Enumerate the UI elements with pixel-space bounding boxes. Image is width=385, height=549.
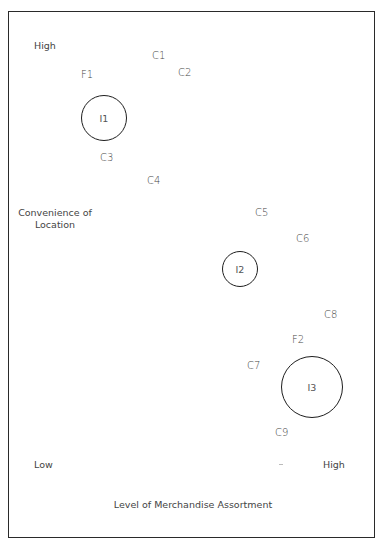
ideal-point-circle-i2: I2 xyxy=(222,251,258,287)
faint-dash-mark xyxy=(279,464,283,465)
ideal-point-label-i1: I1 xyxy=(100,113,109,124)
point-c1: C1 xyxy=(152,50,165,62)
ideal-point-circle-i3: I3 xyxy=(281,356,343,418)
point-f1: F1 xyxy=(81,69,93,81)
ideal-point-label-i3: I3 xyxy=(308,382,317,393)
y-axis-high-label: High xyxy=(34,40,56,52)
ideal-point-label-i2: I2 xyxy=(236,264,245,275)
x-axis-high-label: High xyxy=(323,459,345,471)
y-axis-title-line-2: Location xyxy=(10,219,100,231)
y-axis-title: Convenience of Location xyxy=(10,207,100,231)
y-axis-title-line-1: Convenience of xyxy=(10,207,100,219)
point-c3: C3 xyxy=(100,152,113,164)
point-c2: C2 xyxy=(178,67,191,79)
diagram-frame xyxy=(8,11,375,538)
point-f2: F2 xyxy=(292,334,304,346)
point-c4: C4 xyxy=(147,175,160,187)
point-c5: C5 xyxy=(255,207,268,219)
x-axis-low-label: Low xyxy=(34,459,53,471)
point-c7: C7 xyxy=(247,360,260,372)
point-c6: C6 xyxy=(296,233,309,245)
ideal-point-circle-i1: I1 xyxy=(81,95,127,141)
point-c9: C9 xyxy=(275,427,288,439)
x-axis-title: Level of Merchandise Assortment xyxy=(83,499,303,511)
point-c8: C8 xyxy=(324,309,337,321)
